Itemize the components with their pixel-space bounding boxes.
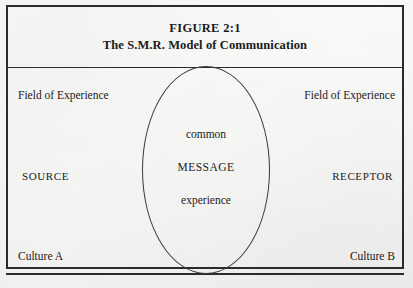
overlap-line-experience: experience <box>181 194 231 207</box>
figure-title-block: FIGURE 2:1 The S.M.R. Model of Communica… <box>8 7 402 67</box>
receptor-label: RECEPTOR <box>332 170 393 183</box>
source-label: SOURCE <box>22 170 69 183</box>
figure-number: FIGURE 2:1 <box>169 21 240 36</box>
culture-a-label: Culture A <box>18 250 63 263</box>
field-of-experience-right-label: Field of Experience <box>304 89 395 102</box>
figure-caption: The S.M.R. Model of Communication <box>103 38 307 53</box>
overlap-line-common: common <box>186 128 226 141</box>
field-of-experience-left-label: Field of Experience <box>18 89 109 102</box>
overlap-text-stack: common MESSAGE experience <box>142 128 270 207</box>
figure-page: FIGURE 2:1 The S.M.R. Model of Communica… <box>0 0 413 288</box>
culture-b-label: Culture B <box>350 250 395 263</box>
overlap-line-message: MESSAGE <box>177 161 234 174</box>
